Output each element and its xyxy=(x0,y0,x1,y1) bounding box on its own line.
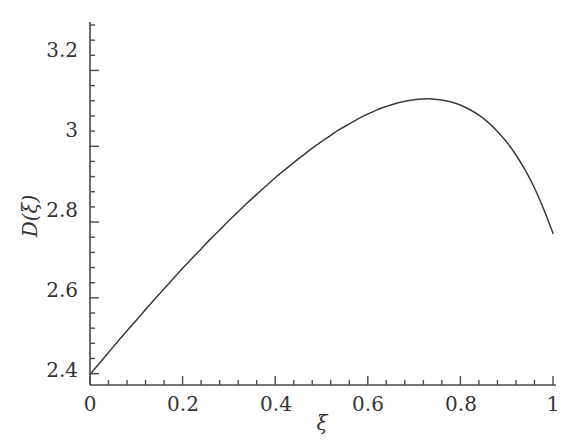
y-tick-label-3.2: 3.2 xyxy=(18,40,78,60)
plot-canvas xyxy=(0,0,587,441)
x-axis-title: ξ xyxy=(316,413,327,433)
y-tick-label-2.6: 2.6 xyxy=(18,280,78,300)
x-tick-label-0.6: 0.6 xyxy=(352,394,384,414)
x-tick-label-0.2: 0.2 xyxy=(167,394,199,414)
data-series-curve xyxy=(90,99,553,375)
y-tick-label-3: 3 xyxy=(18,120,78,140)
y-axis-title: D(ξ) xyxy=(20,195,40,238)
axis-lines xyxy=(90,22,556,385)
x-tick-label-0: 0 xyxy=(84,394,97,414)
y-axis-ticks xyxy=(90,25,99,374)
x-axis-ticks xyxy=(90,376,553,385)
chart-figure: 3.2 3 2.8 2.6 2.4 0 0.2 0.4 0.6 0.8 1 ξ … xyxy=(0,0,587,441)
y-tick-label-2.4: 2.4 xyxy=(18,360,78,380)
x-tick-label-1: 1 xyxy=(547,394,560,414)
x-tick-label-0.4: 0.4 xyxy=(260,394,292,414)
x-tick-label-0.8: 0.8 xyxy=(445,394,477,414)
